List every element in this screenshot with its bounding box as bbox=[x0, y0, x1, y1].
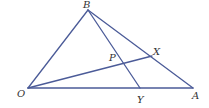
label-P: P bbox=[108, 52, 116, 63]
segment-BY bbox=[88, 10, 140, 88]
segment-OX bbox=[28, 56, 152, 88]
geometry-diagram: B O A X Y P bbox=[0, 0, 209, 108]
segment-OB bbox=[28, 10, 88, 88]
label-B: B bbox=[82, 0, 90, 10]
label-O: O bbox=[17, 88, 25, 99]
segment-BA bbox=[88, 10, 193, 88]
label-Y: Y bbox=[137, 94, 145, 105]
label-X: X bbox=[152, 46, 161, 57]
label-A: A bbox=[191, 90, 199, 101]
